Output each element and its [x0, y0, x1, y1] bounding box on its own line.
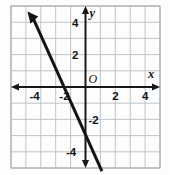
- x-tick-label: -2: [59, 90, 69, 102]
- y-tick-label: 4: [72, 17, 79, 29]
- x-tick-label: -4: [30, 90, 41, 102]
- y-tick-label: -4: [66, 146, 77, 158]
- y-tick-label: 2: [72, 49, 78, 61]
- x-tick-label: 4: [142, 90, 149, 102]
- x-axis-label: x: [147, 67, 154, 81]
- coordinate-plane-figure: -4 -2 2 4 4 2 -2 -4 O x y: [0, 0, 170, 175]
- y-tick-label: -2: [89, 114, 99, 126]
- coordinate-plane-svg: -4 -2 2 4 4 2 -2 -4 O x y: [0, 0, 170, 175]
- x-tick-label: 2: [112, 90, 118, 102]
- y-axis-label: y: [88, 6, 96, 20]
- origin-label: O: [89, 72, 98, 86]
